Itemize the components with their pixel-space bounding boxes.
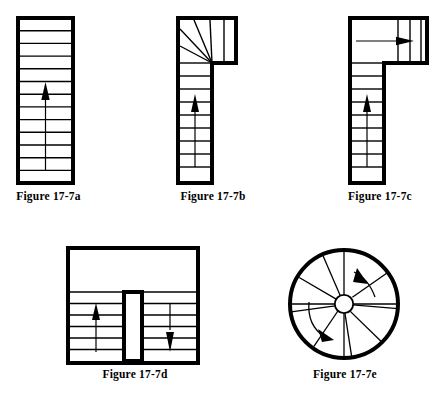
stair-outline xyxy=(178,18,236,183)
caption-figure-17-7c: Figure 17-7c xyxy=(330,190,430,202)
caption-figure-17-7d: Figure 17-7d xyxy=(80,368,190,380)
figure-17-7d xyxy=(60,240,208,370)
center-hub xyxy=(335,295,353,313)
stairwell-well xyxy=(124,292,142,361)
l-shaped-stair-plan xyxy=(300,10,435,195)
figure-17-7c xyxy=(300,10,435,195)
caption-figure-17-7b: Figure 17-7b xyxy=(163,190,263,202)
straight-stair-plan xyxy=(10,10,90,195)
u-shaped-stair-plan xyxy=(60,240,208,370)
figure-17-7a xyxy=(10,10,90,195)
figure-17-7b xyxy=(170,10,260,195)
caption-figure-17-7e: Figure 17-7e xyxy=(290,368,400,380)
winder-stair-plan xyxy=(170,10,260,195)
figure-17-7e xyxy=(282,242,408,368)
caption-figure-17-7a: Figure 17-7a xyxy=(10,190,87,202)
spiral-stair-plan xyxy=(282,242,408,368)
stair-outline xyxy=(350,18,427,183)
